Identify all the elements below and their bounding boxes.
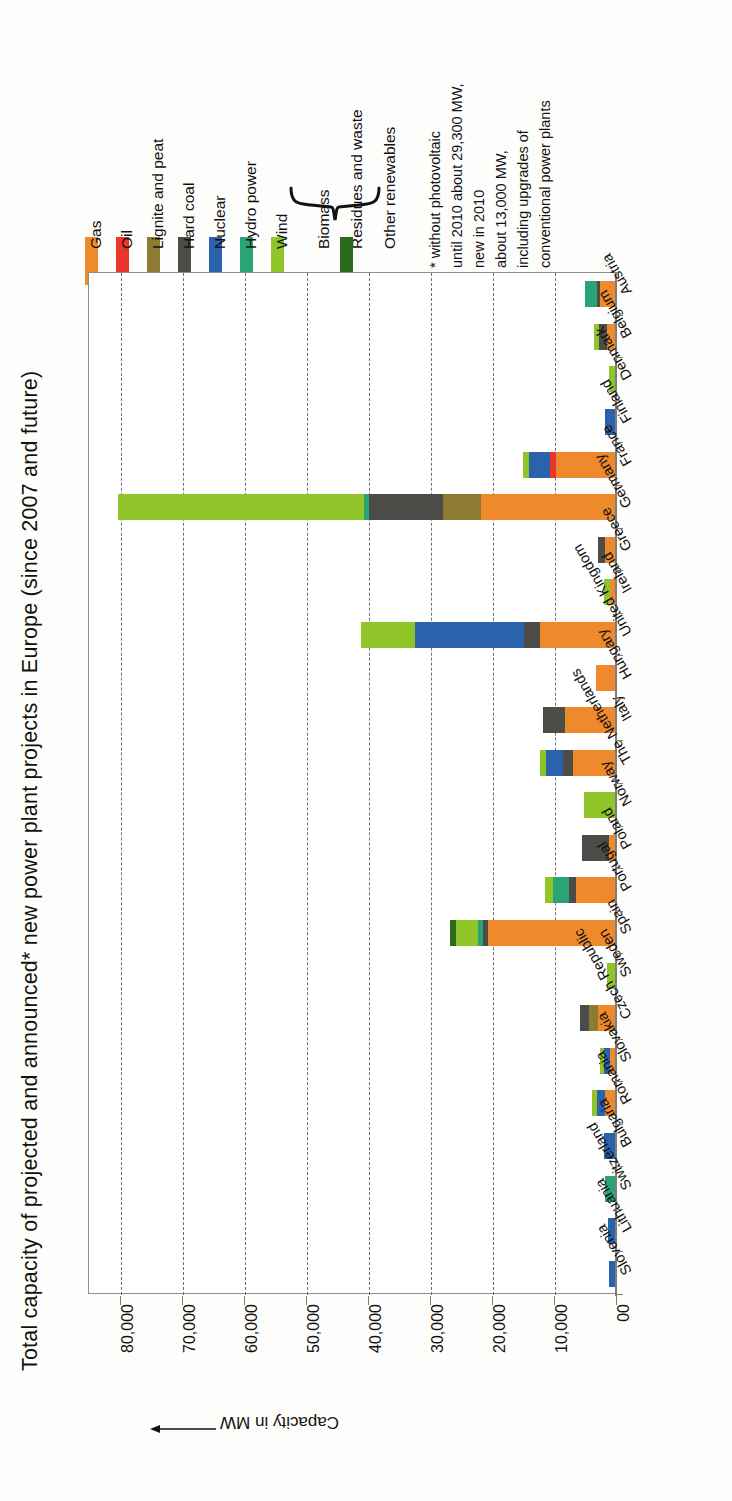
- value-tick-label: 70,000: [181, 1304, 201, 1394]
- gridline: [431, 273, 432, 1295]
- value-tick-label: 80,000: [119, 1304, 139, 1394]
- legend-label: Hard coal: [176, 49, 202, 249]
- legend-item-gas: Gas: [82, 40, 108, 270]
- legend-item-lignite-and-peat: Lignite and peat: [144, 40, 170, 270]
- category-tick: [615, 570, 623, 571]
- value-tick-label: 20,000: [491, 1304, 511, 1394]
- value-tick-label: 60,000: [243, 1304, 263, 1394]
- category-label: Hungary: [478, 668, 628, 686]
- category-tick: [615, 783, 623, 784]
- category-tick: [615, 1294, 623, 1295]
- category-tick: [615, 953, 623, 954]
- footnote-line: until 2010 about 29,300 MW,: [446, 32, 468, 268]
- footnote-line: new in 2010: [468, 32, 490, 268]
- footnote-line: conventional power plants: [534, 32, 556, 268]
- category-label: Portugal: [478, 880, 628, 898]
- title-container: Total capacity of projected and announce…: [0, 0, 56, 1501]
- category-label: Slovenia: [478, 1264, 628, 1282]
- category-labels: AustriaBelgiumDenmarkFinlandFranceGerman…: [616, 272, 732, 1298]
- footnote: * without photovoltaicuntil 2010 about 2…: [424, 40, 554, 270]
- category-tick: [615, 996, 623, 997]
- category-tick: [615, 1166, 623, 1167]
- legend-item-other-renewables: Other renewables: [370, 40, 396, 270]
- category-tick: [615, 357, 623, 358]
- category-tick: [615, 613, 623, 614]
- legend-label: Lignite and peat: [145, 49, 171, 249]
- footnote-line: about 13,000 MW,: [490, 32, 512, 268]
- legend-item-nuclear: Nuclear: [206, 40, 232, 270]
- value-tick-label: 00: [615, 1304, 635, 1394]
- legend-item-wind: Wind: [268, 40, 294, 270]
- category-tick: [615, 868, 623, 869]
- legend-label: Gas: [83, 49, 109, 249]
- gridline: [307, 273, 308, 1295]
- category-tick: [615, 911, 623, 912]
- gridline: [245, 273, 246, 1295]
- category-tick: [615, 315, 623, 316]
- legend-label: Hydro power: [238, 49, 264, 249]
- brace-icon: [289, 186, 381, 222]
- bar-segment: [456, 920, 478, 946]
- category-tick: [615, 485, 623, 486]
- gridline: [369, 273, 370, 1295]
- value-tick-label: 10,000: [553, 1304, 573, 1394]
- category-tick: [615, 740, 623, 741]
- axis-title-label: Capacity in MW: [220, 1412, 339, 1432]
- legend-item-biomass: Biomass: [304, 40, 330, 270]
- chart-legend: GasOilLignite and peatHard coalNuclearHy…: [82, 40, 412, 270]
- category-tick: [615, 400, 623, 401]
- legend-label: Nuclear: [207, 49, 233, 249]
- category-tick: [615, 698, 623, 699]
- category-tick: [615, 528, 623, 529]
- category-tick: [615, 826, 623, 827]
- category-tick: [615, 1209, 623, 1210]
- bar-segment: [369, 494, 443, 520]
- legend-item-hydro-power: Hydro power: [237, 40, 263, 270]
- value-tick-label: 40,000: [367, 1304, 387, 1394]
- category-tick: [615, 1124, 623, 1125]
- value-axis: 0010,00020,00030,00040,00050,00060,00070…: [88, 1296, 620, 1416]
- bar-segment: [118, 494, 364, 520]
- legend-item-oil: Oil: [113, 40, 139, 270]
- gridline: [121, 273, 122, 1295]
- gridline: [183, 273, 184, 1295]
- category-tick: [615, 1081, 623, 1082]
- category-tick: [615, 1039, 623, 1040]
- bar-segment: [361, 622, 414, 648]
- bar-segment: [443, 494, 481, 520]
- page-title: Total capacity of projected and announce…: [2, 26, 58, 1466]
- legend-item-hard-coal: Hard coal: [175, 40, 201, 270]
- footnote-line: * without photovoltaic: [424, 32, 446, 268]
- axis-title: Capacity in MW: [150, 1408, 450, 1448]
- value-tick-label: 30,000: [429, 1304, 449, 1394]
- footnote-line: including upgrades of: [512, 32, 534, 268]
- axis-arrow-icon: [150, 1420, 216, 1430]
- value-tick-label: 50,000: [305, 1304, 325, 1394]
- category-tick: [615, 655, 623, 656]
- category-tick: [615, 1251, 623, 1252]
- legend-item-residues-and-waste: Residues and waste: [337, 40, 363, 270]
- category-tick: [615, 442, 623, 443]
- legend-label: Oil: [114, 49, 140, 249]
